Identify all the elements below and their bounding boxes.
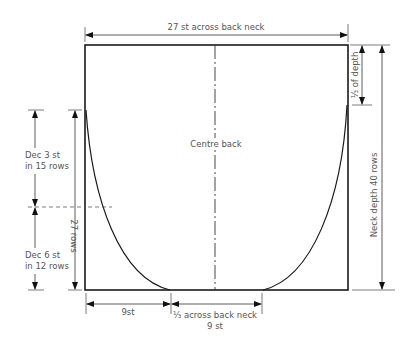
- dec-lower-label-2: in 12 rows: [25, 261, 69, 271]
- neck-depth-label: Neck depth 40 rows: [369, 152, 379, 237]
- left-neck-curve: [86, 110, 170, 290]
- right-neck-curve: [263, 105, 347, 290]
- bottom-left-label: 9st: [121, 307, 135, 317]
- centre-back-label: Centre back: [190, 139, 241, 149]
- neck-shaping-diagram: 27 st across back neck ⅓ of depth Neck d…: [0, 0, 411, 346]
- top-width-label: 27 st across back neck: [167, 22, 264, 32]
- third-depth-label: ⅓ of depth: [350, 52, 360, 99]
- bottom-centre-label-2: 9 st: [207, 321, 224, 331]
- dec-upper-label-1: Dec 3 st: [25, 150, 61, 160]
- bottom-centre-label-1: ⅓ across back neck: [173, 310, 257, 320]
- rows-27-label: 27 rows: [69, 219, 79, 253]
- dec-upper-label-2: in 15 rows: [25, 161, 69, 171]
- dec-lower-label-1: Dec 6 st: [25, 250, 61, 260]
